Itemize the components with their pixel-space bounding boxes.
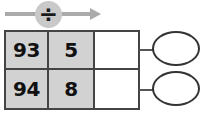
dividend-cell: 94	[6, 70, 49, 108]
quotient-input-cell[interactable]	[95, 70, 138, 108]
operation-badge: ÷	[35, 1, 62, 28]
division-worksheet: ÷ 93 5 94 8	[0, 0, 205, 114]
table-row: 94 8	[6, 70, 138, 108]
right-arrow-icon	[90, 8, 101, 20]
remainder-bubble[interactable]	[152, 31, 200, 66]
divisor-cell: 8	[49, 70, 95, 108]
operation-arrow: ÷	[0, 0, 110, 30]
division-table: 93 5 94 8	[4, 30, 140, 110]
division-symbol-icon: ÷	[35, 1, 62, 28]
divisor-cell: 5	[49, 32, 95, 68]
dividend-cell: 93	[6, 32, 49, 68]
remainder-bubble[interactable]	[152, 71, 200, 106]
quotient-input-cell[interactable]	[95, 32, 138, 68]
table-row: 93 5	[6, 32, 138, 70]
